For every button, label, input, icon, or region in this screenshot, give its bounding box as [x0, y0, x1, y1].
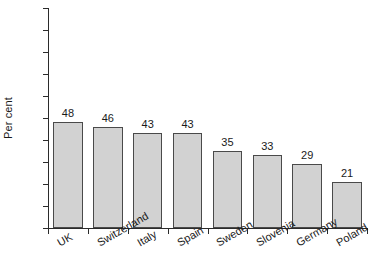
- y-tick-mark: [43, 140, 49, 141]
- bar-value-label: 29: [287, 149, 327, 161]
- y-tick-mark: [43, 184, 49, 185]
- x-category-label: UK: [55, 230, 74, 248]
- x-tick-mark: [168, 228, 169, 234]
- bar: [253, 155, 283, 228]
- bar: [93, 127, 123, 228]
- bar-value-label: 46: [88, 112, 128, 124]
- bar: [173, 133, 203, 228]
- bar-value-label: 35: [207, 136, 247, 148]
- y-tick-mark: [43, 8, 49, 9]
- x-tick-mark: [48, 228, 49, 234]
- bar: [292, 164, 322, 228]
- x-category-label: Italy: [135, 228, 158, 248]
- bar-value-label: 33: [247, 140, 287, 152]
- y-tick-mark: [43, 162, 49, 163]
- bar-chart: Per cent 1009080706050403020100 48464343…: [0, 0, 384, 279]
- bar-value-label: 43: [168, 118, 208, 130]
- bar: [213, 151, 243, 228]
- y-tick-mark: [43, 206, 49, 207]
- y-axis-label: Per cent: [2, 88, 14, 148]
- y-tick-mark: [43, 96, 49, 97]
- x-tick-mark: [208, 228, 209, 234]
- y-tick-mark: [43, 52, 49, 53]
- bar-value-label: 48: [48, 107, 88, 119]
- x-tick-mark: [88, 228, 89, 234]
- bar-value-label: 43: [128, 118, 168, 130]
- y-tick-mark: [43, 74, 49, 75]
- bar: [53, 122, 83, 228]
- bar-value-label: 21: [327, 167, 367, 179]
- y-tick-mark: [43, 30, 49, 31]
